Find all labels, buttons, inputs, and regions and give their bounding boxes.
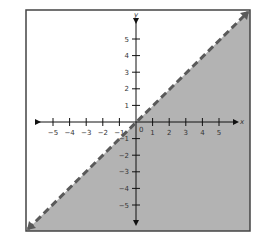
origin-label: 0: [139, 126, 143, 134]
x-tick-label: −2: [98, 129, 108, 137]
x-tick-label: −5: [48, 129, 58, 137]
x-tick-label: 5: [217, 129, 221, 137]
inequality-graph: −5−4−3−2−112345−5−4−3−2−1123450xy: [0, 0, 259, 241]
x-tick-label: 1: [150, 129, 154, 137]
x-tick-label: 4: [200, 129, 205, 137]
y-tick-label: −3: [119, 168, 129, 176]
y-tick-label: 5: [125, 36, 129, 44]
x-axis-label: x: [239, 118, 245, 126]
y-tick-label: −5: [119, 202, 129, 210]
y-tick-label: −2: [119, 152, 129, 160]
y-tick-label: 4: [125, 52, 130, 60]
y-tick-label: 2: [125, 85, 129, 93]
y-tick-label: −4: [119, 185, 130, 193]
x-tick-label: −4: [64, 129, 75, 137]
x-tick-label: −3: [81, 129, 91, 137]
y-tick-label: 1: [125, 102, 129, 110]
y-axis-label: y: [133, 11, 139, 19]
x-tick-label: 3: [184, 129, 188, 137]
x-tick-label: 2: [167, 129, 171, 137]
y-tick-label: 3: [125, 69, 129, 77]
